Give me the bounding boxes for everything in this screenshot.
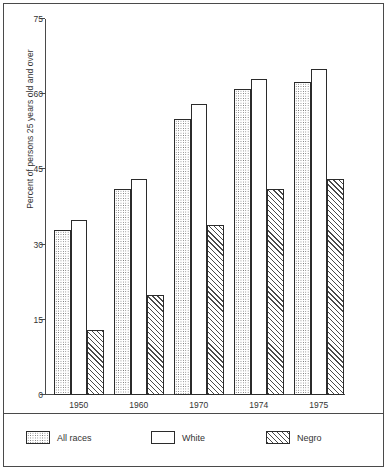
y-tick-label: 45 [21,164,43,174]
bar-1950-all-races [54,230,71,395]
legend-label: Negro [297,433,322,443]
bar-1950-white [71,220,88,395]
bar-1975-white [311,69,328,395]
x-tick-label-1950: 1950 [57,400,101,410]
y-axis-title: Percent of persons 25 years old and over [25,29,35,229]
y-tick-label: 0 [21,390,43,400]
legend-swatch-hatched [266,431,290,444]
bar-1960-all-races [114,189,131,395]
x-tick-label-1970: 1970 [177,400,221,410]
bar-1950-negro [87,330,104,395]
figure-frame: Percent of persons 25 years old and over… [3,3,384,467]
y-tick-label: 60 [21,89,43,99]
y-tick-label: 75 [21,14,43,24]
bar-1974-all-races [234,89,251,395]
x-tick-label-1974: 1974 [237,400,281,410]
legend-item-all-races[interactable]: All races [26,431,92,444]
bar-1960-white [131,179,148,395]
bar-1974-white [251,79,268,395]
y-tick-label: 15 [21,315,43,325]
bar-1970-negro [207,225,224,395]
x-tick-label-1975: 1975 [297,400,341,410]
y-axis-line [45,19,46,395]
bar-1970-white [191,104,208,395]
legend-label: All races [57,433,92,443]
bar-1974-negro [267,189,284,395]
legend-swatch-dotted [26,431,50,444]
bar-1970-all-races [174,119,191,395]
legend-item-negro[interactable]: Negro [266,431,322,444]
bar-1975-negro [327,179,344,395]
chart-panel: Percent of persons 25 years old and over… [4,4,383,412]
x-tick-label-1960: 1960 [117,400,161,410]
legend-swatch-blank [151,431,175,444]
y-tick-label: 30 [21,240,43,250]
legend: All racesWhiteNegro [4,413,383,466]
bar-1960-negro [147,295,164,395]
legend-item-white[interactable]: White [151,431,205,444]
legend-label: White [182,433,205,443]
bar-1975-all-races [294,82,311,395]
plot-area: 01530456075 19501960197019741975 [45,19,345,395]
